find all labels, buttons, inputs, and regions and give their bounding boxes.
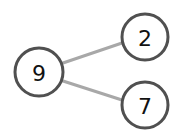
part-2-value: 7 bbox=[138, 94, 152, 119]
edge-whole-to-part-1 bbox=[63, 43, 122, 63]
whole-value: 9 bbox=[32, 61, 46, 86]
part-node-1: 2 bbox=[122, 14, 168, 60]
whole-node: 9 bbox=[15, 48, 63, 96]
part-node-2: 7 bbox=[122, 82, 168, 128]
number-bond-diagram: 9 2 7 bbox=[0, 0, 187, 135]
edge-whole-to-part-2 bbox=[63, 81, 122, 100]
part-1-value: 2 bbox=[138, 26, 152, 51]
